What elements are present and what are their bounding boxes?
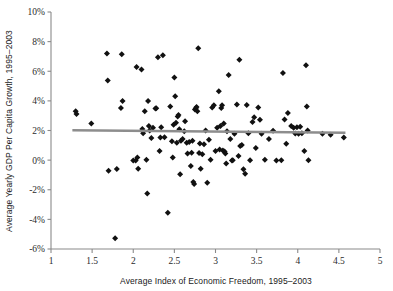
data-point — [255, 105, 261, 111]
data-point — [253, 145, 259, 151]
data-point — [282, 116, 288, 122]
data-point — [204, 180, 210, 186]
data-point — [153, 105, 159, 111]
trend-line-segment — [72, 130, 345, 133]
y-tick-label: 10% — [28, 7, 46, 17]
data-point — [266, 136, 272, 142]
data-point — [227, 136, 233, 142]
scatter-plot-figure: -6%-4%-2%0%2%4%6%8%10% 11.522.533.544.55… — [0, 0, 393, 291]
data-point — [112, 235, 118, 241]
data-point — [244, 102, 250, 108]
data-point — [234, 102, 240, 108]
x-tick-label: 2.5 — [168, 256, 180, 266]
x-tick-label: 1.5 — [86, 256, 98, 266]
data-point — [104, 50, 110, 56]
data-point — [144, 190, 150, 196]
y-tick-label: 6% — [32, 67, 45, 77]
data-point — [303, 62, 309, 68]
data-point — [135, 166, 141, 172]
data-point — [250, 119, 256, 125]
data-point — [216, 88, 222, 94]
x-tick-label: 3.5 — [251, 256, 263, 266]
data-point — [305, 157, 311, 163]
data-point — [304, 104, 310, 110]
y-axis-title: Average Yearly GDP Per Capita Growth, 19… — [4, 30, 14, 232]
data-point — [134, 64, 140, 70]
data-point — [162, 134, 168, 140]
data-point — [341, 135, 347, 141]
x-tick-label: 3 — [213, 256, 218, 266]
data-point — [160, 52, 166, 58]
data-point — [148, 135, 154, 141]
data-point — [145, 98, 151, 104]
data-point — [280, 70, 286, 76]
data-point — [118, 105, 124, 111]
data-point — [278, 157, 284, 163]
data-point — [201, 141, 207, 147]
data-point — [206, 137, 212, 143]
data-point — [247, 157, 253, 163]
y-tick-label: -2% — [29, 185, 45, 195]
data-point — [138, 66, 144, 72]
data-point — [251, 114, 257, 120]
trend-line — [72, 130, 345, 133]
data-point — [88, 120, 94, 126]
data-point — [170, 154, 176, 160]
x-tick-label: 4.5 — [333, 256, 345, 266]
data-point — [189, 150, 195, 156]
data-point — [198, 166, 204, 172]
data-point — [172, 93, 178, 99]
y-tick-label: 4% — [32, 96, 45, 106]
x-tick-label: 5 — [378, 256, 383, 266]
data-point — [143, 157, 149, 163]
data-points — [73, 45, 347, 241]
data-point — [223, 160, 229, 166]
data-point — [273, 157, 279, 163]
data-point — [165, 210, 171, 216]
data-point — [105, 77, 111, 83]
data-point — [158, 124, 164, 130]
data-point — [119, 51, 125, 57]
data-point — [167, 104, 173, 110]
data-point — [171, 74, 177, 80]
data-point — [114, 166, 120, 172]
data-point — [285, 110, 291, 116]
y-tick-label: -4% — [29, 215, 45, 225]
data-point — [177, 171, 183, 177]
y-tick-label: 2% — [32, 126, 45, 136]
y-tick-label: -6% — [29, 244, 45, 254]
data-point — [226, 72, 232, 78]
data-point — [120, 98, 126, 104]
y-tick-label: 0% — [32, 156, 45, 166]
data-point — [236, 57, 242, 63]
data-point — [208, 157, 214, 163]
y-tick-label: 8% — [32, 37, 45, 47]
data-point — [257, 117, 263, 123]
data-point — [142, 108, 148, 114]
data-point — [283, 141, 289, 147]
data-point — [169, 138, 175, 144]
data-point — [182, 118, 188, 124]
x-tick-label: 2 — [131, 256, 136, 266]
data-point — [301, 148, 307, 154]
x-axis: 11.522.533.544.55 — [49, 249, 383, 266]
data-point — [157, 148, 163, 154]
data-point — [106, 168, 112, 174]
chart-canvas: -6%-4%-2%0%2%4%6%8%10% 11.522.533.544.55… — [0, 0, 393, 291]
x-tick-label: 4 — [295, 256, 300, 266]
x-tick-label: 1 — [49, 256, 54, 266]
x-axis-title: Average Index of Economic Freedom, 1995–… — [120, 276, 312, 286]
data-point — [230, 157, 236, 163]
data-point — [262, 157, 268, 163]
data-point — [188, 163, 194, 169]
data-point — [236, 153, 242, 159]
data-point — [195, 45, 201, 51]
y-axis: -6%-4%-2%0%2%4%6%8%10% — [28, 7, 51, 254]
data-point — [155, 54, 161, 60]
